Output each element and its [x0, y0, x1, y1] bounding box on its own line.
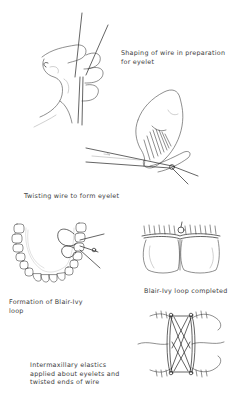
formation-loop-illustration [8, 222, 108, 292]
elastics-crossing-teeth-drawing [136, 308, 226, 380]
two-teeth-with-loop-drawing [140, 222, 224, 278]
caption-shaping-wire: Shaping of wire in preparation for eyele… [121, 49, 236, 66]
teeth-left [12, 224, 33, 276]
twisting-wire-illustration [80, 80, 200, 190]
dental-arch-with-wire-drawing [8, 222, 108, 292]
caption-loop-completed: Blair-Ivy loop completed [144, 287, 239, 296]
caption-formation-loop: Formation of Blair-Ivy loop [9, 298, 119, 315]
teeth-front [33, 273, 65, 282]
teeth-right [65, 223, 86, 275]
intermaxillary-elastics-illustration [136, 308, 226, 380]
caption-intermaxillary-elastics: Intermaxillary elastics applied about ey… [30, 361, 140, 387]
loop-completed-illustration [140, 222, 224, 278]
caption-twisting-wire: Twisting wire to form eyelet [24, 192, 164, 201]
fingers-twisting-wire-drawing [80, 80, 200, 190]
